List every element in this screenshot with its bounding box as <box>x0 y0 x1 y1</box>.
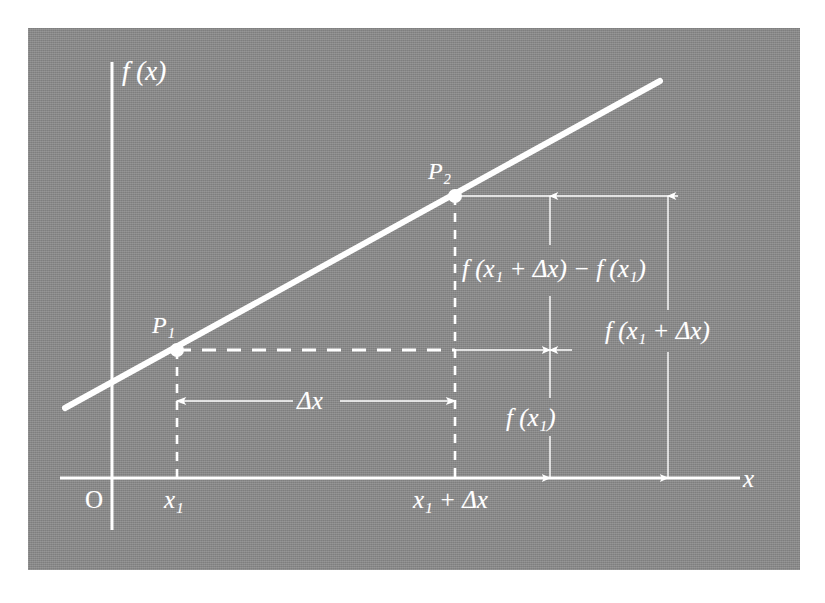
point-label-p1: P₁ <box>152 313 175 337</box>
dimension-label-total-height: f (x₁ + Δx) <box>605 318 710 343</box>
tick-label-x1-plus-dx: x₁ + Δx <box>413 487 488 512</box>
dimension-label-delta-x: Δx <box>297 388 323 413</box>
y-axis-label: f (x) <box>122 58 166 85</box>
dimension-label-rise: f (x₁ + Δx) − f (x₁) <box>462 256 646 281</box>
x-axis-label: x <box>743 466 754 491</box>
point-label-p2: P₂ <box>428 159 451 183</box>
figure-root: f (x) x O x₁ x₁ + Δx P₁ P₂ Δx f (x₁ + Δx… <box>0 0 825 603</box>
function-graph-line <box>65 81 660 408</box>
dimension-label-base-height: f (x₁) <box>506 405 556 430</box>
origin-label: O <box>85 487 103 512</box>
point-marker-p1 <box>170 343 184 357</box>
point-marker-p2 <box>448 189 462 203</box>
tick-label-x1: x₁ <box>164 487 184 512</box>
